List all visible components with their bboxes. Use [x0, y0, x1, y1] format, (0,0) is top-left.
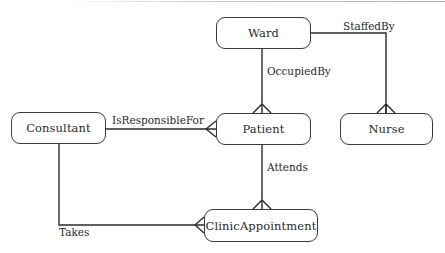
label-takes: Takes [59, 226, 89, 238]
entity-consultant[interactable]: Consultant [11, 112, 106, 144]
entity-patient[interactable]: Patient [216, 113, 311, 145]
crowfoot-nurse [377, 104, 395, 113]
entity-label: Nurse [368, 122, 404, 136]
label-occupiedby: OccupiedBy [267, 65, 331, 77]
label-isresponsiblefor: IsResponsibleFor [112, 114, 204, 126]
label-attends: Attends [267, 161, 308, 173]
entity-label: ClinicAppointment [206, 219, 317, 233]
entity-ward[interactable]: Ward [216, 17, 311, 49]
line-takes [59, 144, 204, 225]
entity-label: Consultant [26, 121, 91, 135]
entity-label: Ward [248, 26, 279, 40]
entity-label: Patient [243, 122, 285, 136]
entity-clinic-appointment[interactable]: ClinicAppointment [204, 209, 318, 242]
label-staffedby: StaffedBy [343, 20, 395, 32]
entity-nurse[interactable]: Nurse [340, 113, 433, 145]
